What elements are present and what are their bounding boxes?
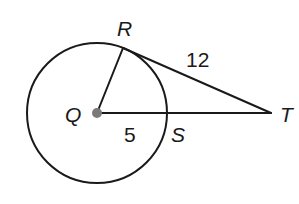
- geometry-diagram: R Q S T 12 5: [0, 0, 299, 204]
- label-length-qs: 5: [124, 123, 136, 146]
- label-point-s: S: [171, 123, 185, 146]
- label-point-q: Q: [65, 103, 81, 126]
- label-point-r: R: [117, 17, 132, 40]
- center-point-q: [92, 108, 102, 118]
- label-length-rt: 12: [186, 48, 209, 71]
- label-point-t: T: [280, 103, 295, 126]
- segment-qr: [97, 48, 123, 113]
